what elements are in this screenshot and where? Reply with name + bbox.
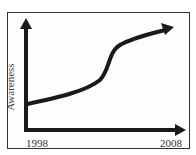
awareness-curve [27,30,165,104]
y-axis-arrow-icon [20,18,32,29]
x-axis-end-label: 2008 [160,137,182,149]
y-axis-label: Awareness [3,60,17,114]
x-axis-arrow-icon [175,124,186,136]
x-axis-start-label: 1998 [26,137,48,149]
awareness-chart [0,0,196,155]
